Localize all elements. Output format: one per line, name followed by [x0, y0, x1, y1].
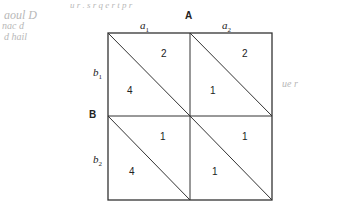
- payoff-b1-a1-column: 2: [161, 48, 167, 59]
- payoff-b2-a1-column: 1: [160, 131, 166, 142]
- payoff-b2-a2-row: 1: [212, 166, 218, 177]
- cell-diagonal: [108, 33, 190, 116]
- payoff-b1-a1-row: 4: [127, 85, 133, 96]
- cell-diagonal: [190, 33, 272, 116]
- payoff-b1-a2-row: 1: [210, 85, 216, 96]
- cell-diagonal: [190, 116, 272, 200]
- cell-diagonal: [108, 116, 190, 200]
- payoff-b1-a2-column: 2: [242, 48, 248, 59]
- payoff-b2-a1-row: 4: [129, 166, 135, 177]
- payoff-b2-a2-column: 1: [242, 131, 248, 142]
- payoff-matrix: 2 4 2 1 1 4 1 1: [0, 0, 350, 214]
